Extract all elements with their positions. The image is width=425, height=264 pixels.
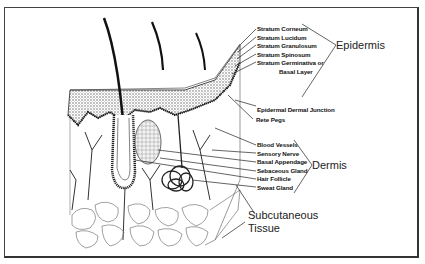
label-stratum-spinosum: Stratum Spinosum [257,51,310,58]
epidermis-layer [68,44,240,125]
label-stratum-lucidum: Stratum Lucidum [257,34,306,41]
label-rete-pegs: Rete Pegs [256,116,285,123]
label-tissue: Tissue [248,222,280,234]
label-sebaceous-gland: Sebaceous Gland [257,167,307,174]
label-basal-appendage: Basal Appendage [257,158,307,165]
label-subcutaneous: Subcutaneous [248,209,318,221]
label-blood-vessels: Blood Vessels [257,141,298,148]
sweat-gland [162,115,193,191]
label-stratum-germinativa: Stratum Germinativa or [257,59,324,66]
sebaceous-gland [135,120,161,164]
label-dermis: Dermis [312,159,347,171]
label-basal-layer: Basal Layer [279,68,313,75]
label-sweat-gland: Sweat Gland [257,184,293,191]
hair-follicle [112,115,135,188]
label-hair-follicle: Hair Follicle [257,175,291,182]
label-stratum-corneum: Stratum Corneum [257,25,308,32]
label-stratum-granulosum: Stratum Granulosum [257,42,317,49]
label-sensory-nerve: Sensory Nerve [257,150,299,157]
label-epidermis: Epidermis [336,39,385,51]
label-epidermal-dermal-junction: Epidermal Dermal Junction [257,106,335,113]
subcutaneous-fat [72,190,240,248]
